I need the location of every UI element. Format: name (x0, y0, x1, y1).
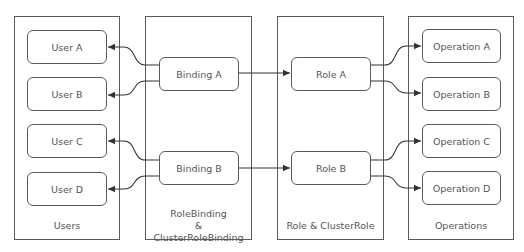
node-label: Operation C (433, 136, 490, 147)
node-label: Operation D (433, 183, 491, 194)
node-operation-a[interactable]: Operation A (422, 29, 501, 63)
node-operation-b[interactable]: Operation B (422, 77, 501, 111)
bindings-container (145, 16, 252, 240)
node-label: User D (51, 184, 83, 195)
label-line-ampersand: & (145, 220, 252, 232)
node-label: Binding B (176, 163, 221, 174)
operations-column-label: Operations (408, 220, 514, 232)
node-user-c[interactable]: User C (27, 124, 107, 158)
node-label: User C (51, 136, 82, 147)
node-operation-d[interactable]: Operation D (422, 171, 501, 205)
bindings-column-label: RoleBinding & ClusterRoleBinding (145, 208, 252, 244)
node-label: Operation B (433, 89, 490, 100)
node-role-b[interactable]: Role B (291, 151, 371, 185)
node-user-d[interactable]: User D (27, 172, 107, 206)
node-label: Role B (316, 163, 346, 174)
node-label: User A (51, 42, 82, 53)
node-label: Operation A (433, 41, 490, 52)
users-column-label: Users (14, 220, 120, 232)
roles-column-label: Role & ClusterRole (277, 220, 384, 232)
node-binding-a[interactable]: Binding A (159, 57, 239, 91)
node-binding-b[interactable]: Binding B (159, 151, 239, 185)
roles-container (277, 16, 384, 240)
node-label: Binding A (176, 69, 221, 80)
node-label: User B (51, 89, 82, 100)
node-user-a[interactable]: User A (27, 30, 107, 64)
label-line-clusterrolebinding: ClusterRoleBinding (145, 232, 252, 244)
node-operation-c[interactable]: Operation C (422, 124, 501, 158)
node-label: Role A (316, 69, 346, 80)
node-user-b[interactable]: User B (27, 77, 107, 111)
label-line-rolebinding: RoleBinding (145, 208, 252, 220)
node-role-a[interactable]: Role A (291, 57, 371, 91)
